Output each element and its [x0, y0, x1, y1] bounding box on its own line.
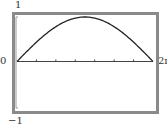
viewing-window-frame: [14, 14, 158, 113]
chart-plot: [0, 0, 167, 131]
y-axis-bracket: [16, 17, 18, 108]
sine-curve: [17, 17, 153, 62]
